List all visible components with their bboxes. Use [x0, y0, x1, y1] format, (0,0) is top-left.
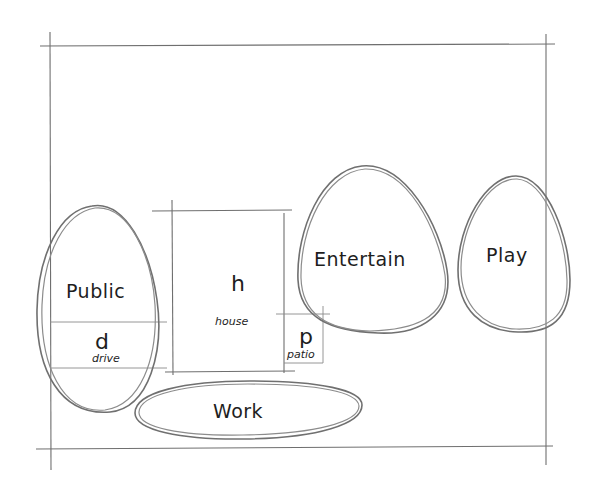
house-letter: h [231, 271, 245, 296]
boundary-top [40, 44, 555, 46]
drive-label: drive [92, 352, 120, 365]
bubble-diagram: Public Entertain Play Work d drive h hou… [0, 0, 598, 483]
entertain-label: Entertain [314, 248, 406, 270]
boundary-left [50, 32, 51, 470]
public-bubble[interactable] [37, 206, 159, 413]
boundary-bottom [36, 446, 553, 449]
public-label: Public [66, 280, 125, 302]
house-top [152, 210, 292, 211]
house-outline [152, 200, 295, 375]
work-label: Work [213, 400, 263, 422]
drive-letter: d [95, 329, 109, 354]
property-boundary [36, 32, 555, 470]
house-bottom [165, 371, 295, 372]
patio-label: patio [286, 348, 315, 361]
play-label: Play [486, 244, 528, 266]
patio-letter: p [299, 324, 313, 349]
house-label: house [215, 315, 248, 328]
house-left [172, 200, 173, 375]
